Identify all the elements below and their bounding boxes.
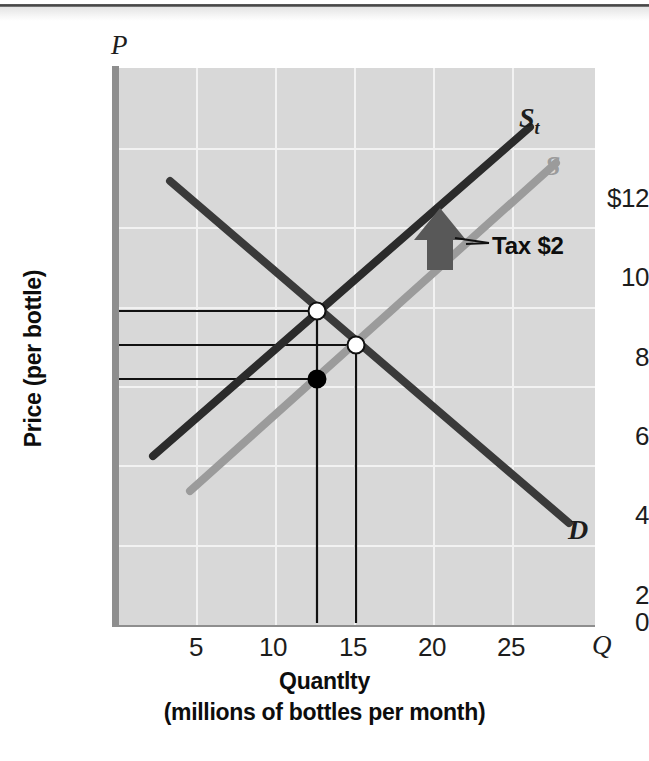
curve-supply-taxed: [153, 127, 530, 456]
marker-equilibrium-with-tax: [309, 303, 326, 320]
tax-annotation-label: Tax $2: [492, 232, 564, 260]
supply-demand-tax-figure: $12 10 8 6 4 2 0 5 10 15 20 25 P Q Price…: [0, 0, 649, 761]
curve-label-supply-taxed-subscript: t: [535, 118, 540, 138]
curve-label-supply: S: [545, 150, 561, 182]
curve-label-supply-taxed: St: [519, 102, 540, 139]
chart-curves-layer: [0, 0, 649, 761]
curve-supply: [190, 163, 556, 491]
curve-label-supply-taxed-text: S: [519, 102, 535, 133]
curve-label-demand: D: [568, 514, 588, 546]
marker-equilibrium-before-tax: [348, 337, 365, 354]
marker-net-price-sellers-receive: [309, 371, 326, 388]
